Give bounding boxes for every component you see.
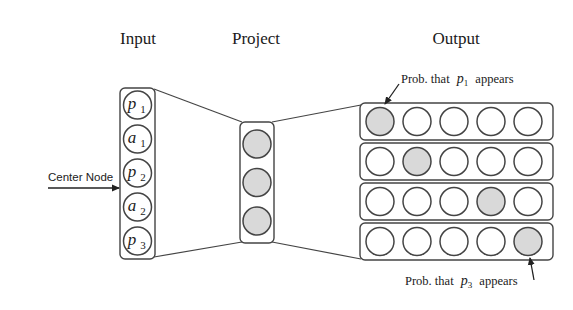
input-node-p3: p3 — [124, 227, 152, 255]
output-row-3 — [360, 183, 553, 220]
output-row-1 — [360, 103, 553, 140]
output-node-highlighted — [403, 148, 431, 176]
input-node-var: a — [128, 128, 137, 147]
output-node — [366, 148, 394, 176]
project-node — [243, 130, 271, 158]
input-node-var: p — [127, 94, 137, 113]
input-node-sub: 2 — [140, 171, 146, 183]
output-node-highlighted — [366, 108, 394, 136]
output-node — [477, 108, 505, 136]
output-node — [514, 148, 542, 176]
skip-gram-diagram: Input Project Output p1a1p2a2p3 Center N… — [0, 0, 573, 310]
annotation-top: Prob. that p1 appears — [385, 71, 514, 104]
output-title: Output — [432, 29, 480, 48]
input-node-a1: a1 — [124, 125, 152, 153]
input-node-var: p — [127, 230, 137, 249]
output-node — [366, 188, 394, 216]
project-layer — [240, 122, 274, 243]
output-node-highlighted — [514, 228, 542, 256]
output-node — [440, 148, 468, 176]
input-title: Input — [120, 29, 156, 48]
project-node — [243, 169, 271, 197]
output-node — [403, 228, 431, 256]
output-node — [366, 228, 394, 256]
output-node — [440, 188, 468, 216]
input-node-sub: 2 — [140, 205, 146, 217]
input-layer: p1a1p2a2p3 — [120, 88, 155, 259]
input-node-p2: p2 — [124, 159, 152, 187]
output-node-highlighted — [477, 188, 505, 216]
output-node — [477, 228, 505, 256]
input-node-sub: 3 — [140, 239, 146, 251]
annotation-bottom-text: Prob. that p3 appears — [405, 273, 518, 291]
output-node — [440, 228, 468, 256]
output-row-2 — [360, 143, 553, 180]
input-node-a2: a2 — [124, 193, 152, 221]
annotation-bottom-arrow — [530, 258, 534, 280]
annotation-bottom: Prob. that p3 appears — [405, 258, 534, 291]
center-node-annotation: Center Node — [48, 171, 119, 188]
project-node — [243, 207, 271, 235]
output-node — [514, 188, 542, 216]
output-layer — [360, 103, 553, 260]
input-node-p1: p1 — [124, 91, 152, 119]
input-node-sub: 1 — [140, 137, 146, 149]
output-node — [477, 148, 505, 176]
output-node — [440, 108, 468, 136]
annotation-top-text: Prob. that p1 appears — [401, 71, 514, 89]
output-row-4 — [360, 223, 553, 260]
input-node-sub: 1 — [140, 103, 146, 115]
annotation-top-arrow — [385, 84, 399, 104]
project-title: Project — [232, 29, 280, 48]
input-node-var: a — [128, 196, 137, 215]
input-node-var: p — [127, 162, 137, 181]
center-node-label: Center Node — [48, 171, 113, 183]
output-node — [403, 188, 431, 216]
output-node — [514, 108, 542, 136]
output-node — [403, 108, 431, 136]
